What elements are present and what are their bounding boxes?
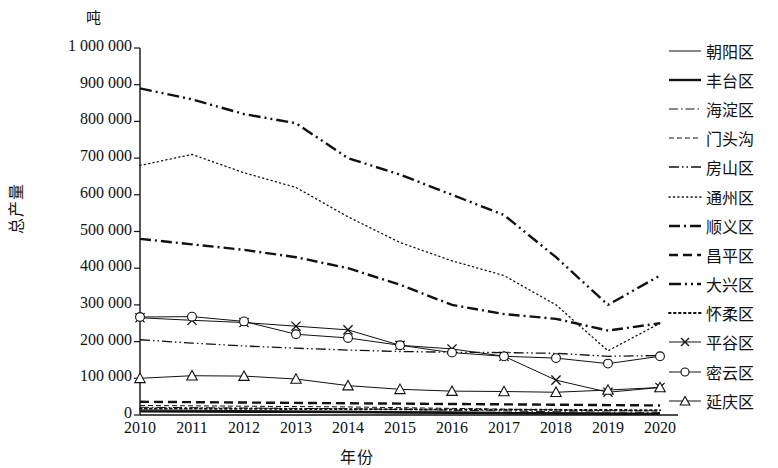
series-marker	[136, 313, 145, 322]
chart-figure: 吨 总产量 年份 1 000 000900 000800 000700 0006…	[0, 0, 778, 468]
series-marker	[551, 376, 560, 385]
chart-legend: 朝阳区丰台区海淀区门头沟房山区通州区顺义区昌平区大兴区怀柔区平谷区密云区延庆区	[668, 36, 778, 415]
legend-line-sample	[668, 102, 702, 116]
legend-label: 昌平区	[706, 243, 754, 267]
legend-label: 大兴区	[706, 272, 754, 296]
legend-item-9[interactable]: 怀柔区	[668, 299, 778, 328]
series-marker	[448, 348, 457, 357]
legend-item-3[interactable]: 门头沟	[668, 124, 778, 153]
legend-line-sample	[668, 248, 702, 262]
series-marker	[240, 317, 249, 326]
series-marker	[552, 354, 561, 363]
legend-label: 通州区	[706, 185, 754, 209]
legend-item-12[interactable]: 延庆区	[668, 386, 778, 415]
legend-line-sample	[668, 394, 702, 408]
legend-line-sample	[668, 219, 702, 233]
series-marker	[187, 371, 197, 381]
legend-item-1[interactable]: 丰台区	[668, 65, 778, 94]
legend-label: 房山区	[706, 155, 754, 179]
legend-label: 顺义区	[706, 214, 754, 238]
legend-item-10[interactable]: 平谷区	[668, 328, 778, 357]
legend-line-sample	[668, 365, 702, 379]
series-line	[140, 317, 660, 364]
series-line	[140, 402, 660, 406]
legend-label: 丰台区	[706, 68, 754, 92]
legend-line-sample	[668, 160, 702, 174]
series-line	[140, 239, 660, 331]
legend-line-sample	[668, 306, 702, 320]
legend-item-11[interactable]: 密云区	[668, 357, 778, 386]
plot-area	[0, 0, 778, 468]
legend-line-sample	[668, 335, 702, 349]
legend-label: 平谷区	[706, 330, 754, 354]
legend-line-sample	[668, 190, 702, 204]
series-marker	[500, 352, 509, 361]
legend-line-sample	[668, 277, 702, 291]
legend-item-6[interactable]: 顺义区	[668, 211, 778, 240]
series-marker	[344, 334, 353, 343]
legend-label: 海淀区	[706, 97, 754, 121]
legend-line-sample	[668, 73, 702, 87]
legend-line-sample	[668, 131, 702, 145]
legend-line-sample	[668, 44, 702, 58]
legend-item-5[interactable]: 通州区	[668, 182, 778, 211]
legend-label: 延庆区	[706, 389, 754, 413]
series-marker	[604, 359, 613, 368]
legend-label: 密云区	[706, 360, 754, 384]
legend-label: 朝阳区	[706, 39, 754, 63]
series-marker	[292, 330, 301, 339]
legend-item-2[interactable]: 海淀区	[668, 94, 778, 123]
series-line	[140, 88, 660, 305]
legend-item-8[interactable]: 大兴区	[668, 270, 778, 299]
legend-item-4[interactable]: 房山区	[668, 153, 778, 182]
series-marker	[188, 312, 197, 321]
series-marker	[656, 352, 665, 361]
series-marker	[396, 341, 405, 350]
legend-item-0[interactable]: 朝阳区	[668, 36, 778, 65]
legend-item-7[interactable]: 昌平区	[668, 240, 778, 269]
legend-label: 怀柔区	[706, 301, 754, 325]
legend-label: 门头沟	[706, 126, 754, 150]
